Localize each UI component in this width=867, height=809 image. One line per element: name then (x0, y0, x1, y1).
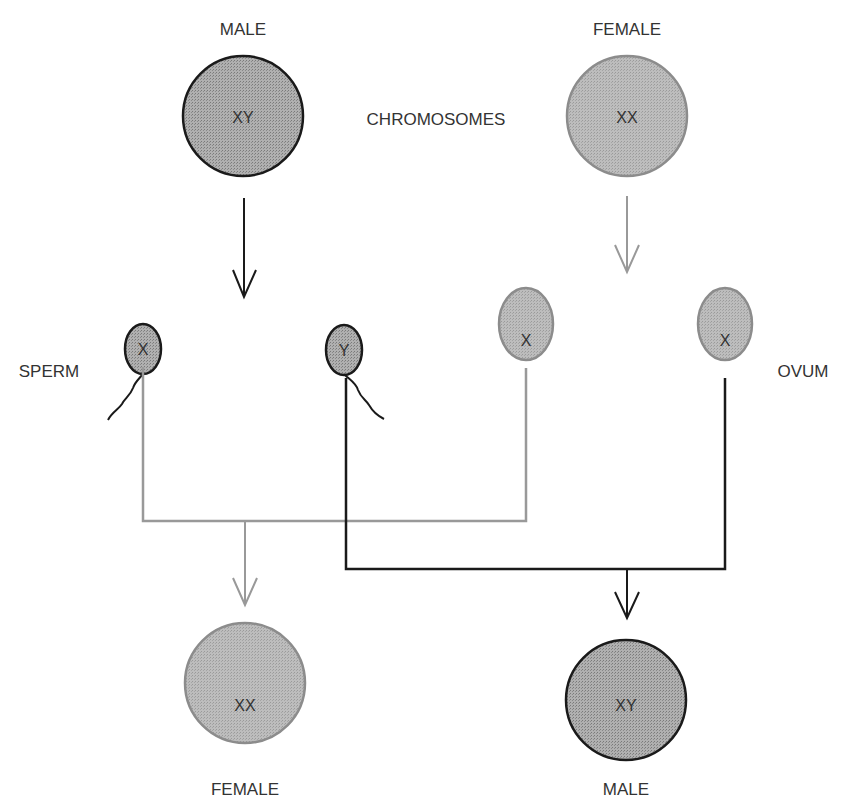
sperm-y-tail (345, 375, 384, 419)
offspring-female: XX FEMALE (185, 623, 305, 799)
chromosomes-label: CHROMOSOMES (367, 110, 506, 129)
parent-female: FEMALE XX (567, 20, 687, 176)
sperm-x-tail (108, 374, 143, 420)
sex-determination-diagram: MALE XY CHROMOSOMES FEMALE XX SPERM OVUM… (0, 0, 867, 809)
offspring-male-chromosomes: XY (615, 697, 637, 714)
male-fertilization-path (346, 378, 725, 618)
sperm-y-chromosome: Y (339, 342, 350, 359)
sperm-x: X (108, 324, 161, 420)
ovum-1-chromosome: X (521, 332, 532, 349)
ovum-x-1: X (499, 288, 553, 360)
sperm-y: Y (326, 325, 384, 419)
female-meiosis-arrow (615, 196, 639, 272)
sperm-label: SPERM (19, 362, 79, 381)
male-meiosis-arrow (233, 198, 256, 297)
parent-male-chromosomes: XY (232, 109, 254, 126)
offspring-male: XY MALE (566, 640, 686, 799)
parent-male-label: MALE (220, 20, 266, 39)
offspring-male-label: MALE (603, 780, 649, 799)
ovum-label: OVUM (778, 362, 829, 381)
sperm-x-chromosome: X (138, 341, 149, 358)
parent-female-chromosomes: XX (616, 109, 638, 126)
parent-female-label: FEMALE (593, 20, 661, 39)
ovum-x-2: X (698, 288, 752, 360)
ovum-2-circle (698, 288, 752, 360)
offspring-female-chromosomes: XX (234, 697, 256, 714)
ovum-1-circle (499, 288, 553, 360)
offspring-female-label: FEMALE (211, 780, 279, 799)
parent-male: MALE XY (183, 20, 303, 176)
offspring-female-circle (185, 623, 305, 743)
ovum-2-chromosome: X (720, 332, 731, 349)
